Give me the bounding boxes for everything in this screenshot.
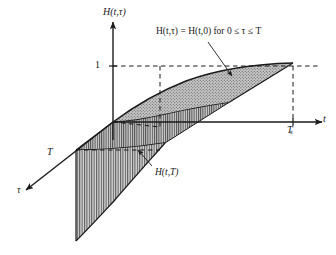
figure-canvas: [0, 0, 336, 255]
horizontal-axis-label: t: [323, 114, 326, 124]
hazard-surface-figure: H(t,τ) τ t 1 T T s H(t,T) H(t,τ) = H(t,0…: [0, 0, 336, 255]
lower-edge-label: H(t,T): [155, 168, 179, 178]
tick-label-Ts-subscript: s: [290, 129, 293, 136]
tick-label-one: 1: [95, 60, 100, 70]
hazard-skirt-face: [76, 143, 165, 241]
vertical-axis-label: H(t,τ): [103, 7, 126, 17]
tick-label-T: T: [47, 147, 53, 157]
surface-note-label: H(t,τ) = H(t,0) for 0 ≤ τ ≤ T: [156, 27, 261, 37]
depth-axis-label: τ: [17, 185, 21, 195]
